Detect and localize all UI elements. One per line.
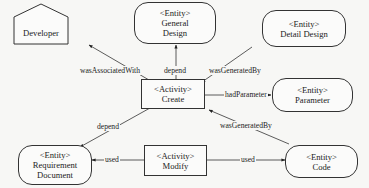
create-label: Create (162, 94, 184, 104)
design-label: Design (163, 28, 187, 38)
entity-tag: <Entity> (306, 152, 337, 162)
edge-label-used-requirement: used (104, 155, 120, 164)
edge-label-was-generated-by-detail: wasGeneratedBy (208, 66, 262, 75)
create-activity-node: <Activity> Create (141, 79, 205, 109)
edge-label-depend-general: depend (163, 66, 187, 75)
entity-tag: <Entity> (160, 8, 191, 18)
detail-design-label: Detail Design (280, 29, 328, 39)
code-label: Code (312, 162, 330, 172)
detail-design-node: <Entity> Detail Design (262, 10, 346, 47)
developer-label: Developer (23, 28, 59, 38)
edge-label-was-associated-with: wasAssociatedWith (79, 66, 141, 75)
edge-label-depend-requirement: depend (96, 122, 120, 131)
edge-label-used-code: used (240, 155, 256, 164)
general-design-node: <Entity> General Design (134, 2, 216, 44)
developer-node: Developer (14, 22, 68, 44)
modify-label: Modify (163, 161, 189, 171)
general-label: General (161, 18, 188, 28)
edge-label-had-parameter: hadParameter (224, 90, 268, 99)
document-label: Document (37, 170, 73, 180)
modify-activity-node: <Activity> Modify (144, 145, 207, 176)
requirement-label: Requirement (33, 160, 77, 170)
entity-tag: <Entity> (40, 150, 71, 160)
activity-tag: <Activity> (154, 84, 192, 94)
parameter-label: Parameter (295, 95, 330, 105)
activity-tag: <Activity> (157, 151, 195, 161)
parameter-node: <Entity> Parameter (272, 78, 353, 112)
edge-label-was-generated-by-code: wasGeneratedBy (219, 121, 273, 130)
entity-tag: <Entity> (289, 19, 320, 29)
code-node: <Entity> Code (285, 145, 358, 178)
entity-tag: <Entity> (297, 85, 328, 95)
requirement-document-node: <Entity> Requirement Document (18, 145, 92, 185)
